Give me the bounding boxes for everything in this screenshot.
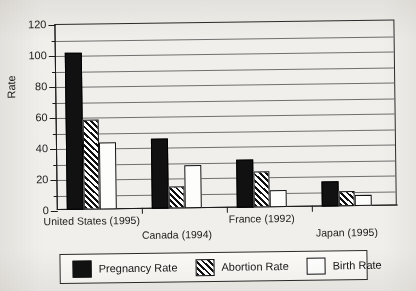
legend-item-pregnancy-rate: Pregnancy Rate (72, 259, 177, 277)
x-axis-group-tick (142, 208, 143, 214)
x-axis-category-label: United States (1995) (43, 214, 139, 227)
bar (65, 53, 84, 210)
legend-label-birth-rate: Birth Rate (333, 259, 382, 272)
bar (82, 120, 100, 210)
legend-item-birth-rate: Birth Rate (307, 256, 382, 274)
x-axis-category-label: France (1992) (229, 212, 295, 225)
bar-series-container (54, 20, 396, 210)
legend-swatch-icon-birth-rate (307, 257, 326, 274)
bar (99, 143, 116, 210)
bar (338, 191, 355, 207)
bar (184, 165, 201, 209)
bar (321, 182, 338, 207)
legend-swatch-icon-abortion-rate (195, 258, 214, 275)
y-axis-tick-label: 60 (35, 112, 47, 123)
y-axis-tick-label: 120 (28, 19, 47, 30)
bar (151, 139, 168, 209)
y-axis-tick-major (51, 211, 58, 212)
legend-label-pregnancy-rate: Pregnancy Rate (99, 261, 178, 274)
legend-item-abortion-rate: Abortion Rate (195, 257, 288, 275)
x-axis-category-label: Canada (1994) (142, 228, 212, 241)
y-axis-tick-label: 80 (35, 81, 47, 92)
bar (355, 195, 372, 206)
x-axis-labels: United States (1995)Canada (1994)France … (0, 0, 414, 3)
bar (253, 172, 270, 208)
y-axis-title: Rate (5, 75, 17, 98)
bar (236, 159, 253, 207)
x-axis-group-tick (312, 206, 313, 212)
bar (168, 187, 185, 209)
bar-chart-figure: Rate 020406080100120 United States (1995… (0, 0, 416, 291)
y-axis-tick-label: 100 (28, 50, 47, 61)
chart-legend: Pregnancy Rate Abortion Rate Birth Rate (59, 250, 367, 284)
x-axis-category-label: Japan (1995) (316, 226, 378, 239)
bar (270, 190, 287, 207)
y-axis-tick-label: 40 (36, 143, 48, 154)
legend-swatch-icon-pregnancy-rate (72, 260, 91, 277)
y-axis-tick-label: 20 (36, 174, 48, 185)
legend-label-abortion-rate: Abortion Rate (221, 260, 288, 273)
